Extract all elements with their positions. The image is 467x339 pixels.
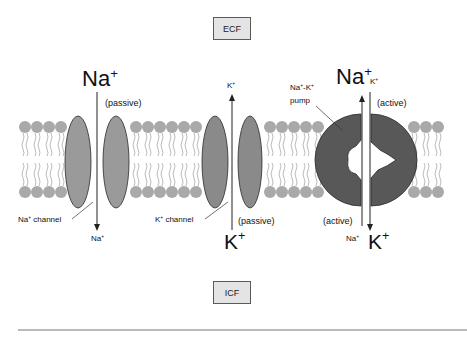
lipid-bilayer-segment-1: [19, 121, 67, 198]
na-channel-label: Na+ channel: [18, 216, 61, 224]
icf-label-box: ICF: [213, 281, 251, 304]
ecf-label: ECF: [223, 24, 241, 34]
na-passive-label: (passive): [105, 99, 142, 108]
icf-label: ICF: [225, 288, 240, 298]
k-passive-label: (passive): [238, 217, 275, 226]
pump-na-ecf-label: Na+: [336, 66, 372, 88]
na-passive-arrow: [94, 92, 100, 231]
lipid-bilayer-segment-2: [130, 121, 202, 198]
pump-word-label: pump: [290, 97, 310, 105]
pump-na-icf-label: Na+: [346, 235, 359, 243]
pump-active-top-label: (active): [377, 99, 407, 108]
pump-active-bottom-label: (active): [323, 217, 353, 226]
k-channel-label: K+ channel: [155, 216, 193, 224]
k-ecf-label: K+: [227, 82, 235, 90]
na-ecf-label: Na+: [82, 68, 118, 90]
k-passive-arrow: [229, 94, 235, 230]
ecf-label-box: ECF: [213, 17, 251, 40]
na-icf-label: Na+: [91, 235, 104, 243]
pump-k-icf-label: K+: [368, 231, 389, 252]
na-k-pump-protein: [315, 114, 417, 206]
pump-k-arrow: [367, 92, 373, 231]
k-icf-label: K+: [224, 231, 245, 252]
pump-name-label: Na+-K+: [290, 84, 314, 92]
pump-k-ecf-label: K+: [370, 78, 378, 86]
